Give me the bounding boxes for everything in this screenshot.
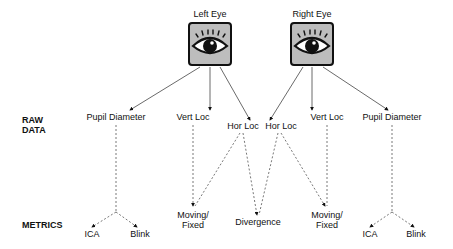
left-eye-icon	[188, 22, 232, 66]
left-eye-title: Left Eye	[193, 9, 226, 19]
right-moving-line2: Fixed	[311, 220, 343, 230]
right-moving-fixed: Moving/ Fixed	[311, 210, 343, 230]
left-moving-line2: Fixed	[177, 220, 209, 230]
right-eye-title: Right Eye	[292, 9, 331, 19]
divergence: Divergence	[235, 217, 281, 227]
raw-label-line1: RAW	[22, 115, 46, 125]
right-blink: Blink	[406, 229, 426, 239]
left-blink: Blink	[130, 229, 150, 239]
metrics-row-label: METRICS	[22, 220, 63, 230]
right-hor-loc: Hor Loc	[265, 121, 297, 131]
right-moving-line1: Moving/	[311, 210, 343, 220]
left-moving-fixed: Moving/ Fixed	[177, 210, 209, 230]
right-vert-loc: Vert Loc	[310, 112, 343, 122]
left-moving-line1: Moving/	[177, 210, 209, 220]
right-pupil-diameter: Pupil Diameter	[362, 112, 421, 122]
left-hor-loc: Hor Loc	[227, 121, 259, 131]
right-eye-icon	[290, 22, 334, 66]
right-ica: ICA	[362, 229, 377, 239]
left-vert-loc: Vert Loc	[176, 112, 209, 122]
left-ica: ICA	[84, 229, 99, 239]
raw-label-line2: DATA	[22, 125, 46, 135]
left-pupil-diameter: Pupil Diameter	[86, 112, 145, 122]
raw-data-row-label: RAW DATA	[22, 115, 46, 135]
